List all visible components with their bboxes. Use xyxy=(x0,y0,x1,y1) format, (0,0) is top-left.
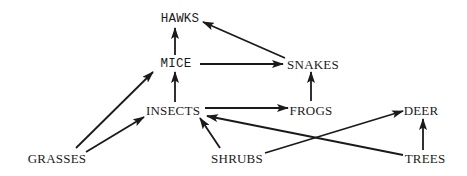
node-hawks: HAWKS xyxy=(161,13,200,26)
arrow-shrubs-to-insects xyxy=(200,118,220,148)
arrow-snakes-to-hawks xyxy=(203,22,285,58)
food-web-diagram: HAWKS MICE SNAKES INSECTS FROGS DEER GRA… xyxy=(0,0,467,176)
node-insects: INSECTS xyxy=(146,104,200,117)
arrow-grasses-to-insects xyxy=(86,117,144,152)
node-mice: MICE xyxy=(161,58,192,71)
arrow-trees-to-insects xyxy=(207,116,403,155)
node-deer: DEER xyxy=(404,104,439,117)
node-grasses: GRASSES xyxy=(28,152,86,165)
node-trees: TREES xyxy=(405,152,446,165)
node-frogs: FROGS xyxy=(290,104,333,117)
arrow-grasses-to-mice xyxy=(76,72,153,148)
node-snakes: SNAKES xyxy=(287,58,339,71)
node-shrubs: SHRUBS xyxy=(211,152,263,165)
